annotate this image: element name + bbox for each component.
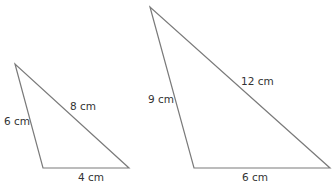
large-base-label: 6 cm bbox=[242, 171, 268, 183]
small-base-label: 4 cm bbox=[78, 171, 104, 183]
similar-triangles-diagram: 6 cm 8 cm 4 cm 9 cm 12 cm 6 cm bbox=[0, 0, 333, 183]
small-left-side-label: 6 cm bbox=[4, 115, 30, 127]
large-hypotenuse-label: 12 cm bbox=[241, 75, 274, 87]
small-hypotenuse-label: 8 cm bbox=[70, 100, 96, 112]
small-triangle bbox=[15, 64, 129, 168]
large-triangle bbox=[150, 7, 330, 168]
large-left-side-label: 9 cm bbox=[148, 93, 174, 105]
